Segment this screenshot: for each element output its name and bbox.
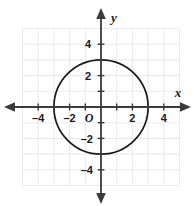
coordinate-plane-graph: –4 –2 2 4 4 2 –2 –4 O x y — [0, 0, 195, 206]
y-tick-label-neg2: –2 — [81, 133, 93, 145]
x-tick-label-neg4: –4 — [32, 112, 45, 124]
y-axis-label: y — [109, 10, 117, 25]
y-tick-label-pos2: 2 — [85, 70, 91, 82]
origin-label: O — [85, 111, 94, 125]
x-tick-label-pos4: 4 — [161, 112, 168, 124]
y-tick-label-neg4: –4 — [81, 164, 94, 176]
graph-canvas: –4 –2 2 4 4 2 –2 –4 O x y — [0, 0, 195, 206]
x-tick-label-pos2: 2 — [129, 112, 135, 124]
x-axis-label: x — [174, 85, 182, 100]
y-tick-label-pos4: 4 — [85, 38, 92, 50]
graph-background — [0, 0, 195, 206]
x-tick-label-neg2: –2 — [63, 112, 75, 124]
